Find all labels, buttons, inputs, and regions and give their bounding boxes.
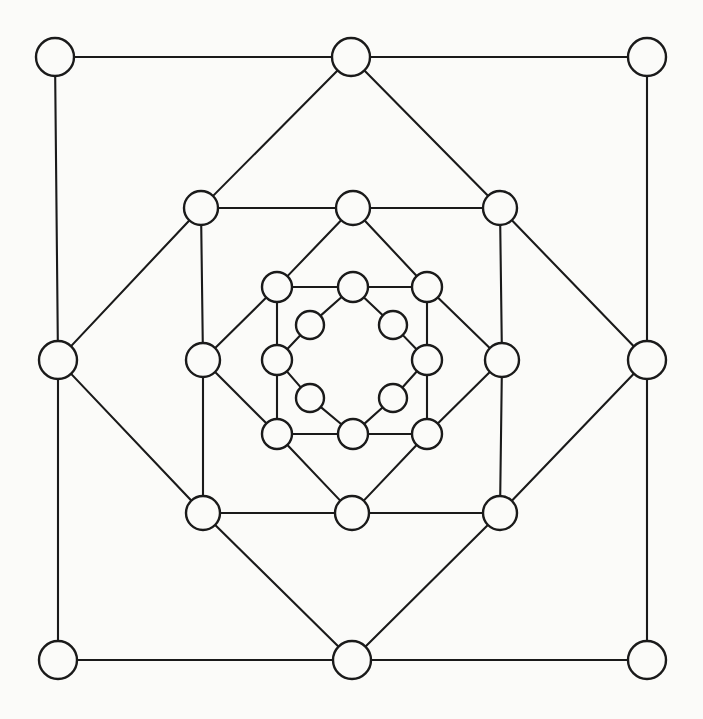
graph-edge bbox=[364, 220, 417, 277]
graph-edge bbox=[215, 297, 267, 348]
graph-edge bbox=[364, 70, 489, 196]
graph-node-r3-s[interactable] bbox=[338, 419, 368, 449]
graph-edge bbox=[213, 70, 338, 196]
node-layer bbox=[36, 38, 666, 679]
graph-node-r2-ne[interactable] bbox=[483, 191, 517, 225]
graph-node-r1-ne[interactable] bbox=[628, 38, 666, 76]
graph-edge bbox=[365, 525, 488, 647]
graph-node-r2-w[interactable] bbox=[186, 343, 220, 377]
graph-edge bbox=[287, 444, 341, 501]
graph-node-r2-s[interactable] bbox=[335, 496, 369, 530]
graph-edge bbox=[201, 224, 203, 343]
graph-edge bbox=[511, 373, 634, 501]
graph-node-r2-n[interactable] bbox=[336, 191, 370, 225]
edge-layer bbox=[55, 57, 647, 660]
graph-node-r3-w[interactable] bbox=[262, 345, 292, 375]
graph-node-r1-nw[interactable] bbox=[36, 38, 74, 76]
graph-edge bbox=[363, 444, 417, 501]
graph-edge bbox=[320, 407, 342, 425]
graph-node-r1-e[interactable] bbox=[628, 341, 666, 379]
graph-node-r3-n[interactable] bbox=[338, 272, 368, 302]
graph-node-r1-w[interactable] bbox=[39, 341, 77, 379]
graph-canvas bbox=[0, 0, 703, 719]
graph-edge bbox=[402, 371, 417, 388]
graph-edge bbox=[511, 220, 634, 347]
graph-node-r4-se[interactable] bbox=[379, 384, 407, 412]
graph-edge bbox=[286, 371, 301, 388]
graph-edge bbox=[287, 220, 342, 277]
graph-edge bbox=[71, 373, 192, 501]
graph-node-r4-sw[interactable] bbox=[296, 384, 324, 412]
graph-node-r1-sw[interactable] bbox=[39, 641, 77, 679]
graph-figure bbox=[0, 0, 703, 719]
graph-node-r3-se[interactable] bbox=[412, 419, 442, 449]
graph-edge bbox=[215, 372, 267, 424]
graph-edge bbox=[71, 220, 190, 347]
graph-edge bbox=[500, 224, 502, 343]
graph-node-r4-ne[interactable] bbox=[379, 311, 407, 339]
graph-node-r1-s[interactable] bbox=[333, 641, 371, 679]
graph-node-r2-sw[interactable] bbox=[186, 496, 220, 530]
graph-edge bbox=[500, 376, 502, 496]
graph-node-r1-se[interactable] bbox=[628, 641, 666, 679]
graph-edge bbox=[437, 372, 490, 424]
graph-edge bbox=[287, 335, 301, 350]
graph-node-r1-n[interactable] bbox=[332, 38, 370, 76]
graph-edge bbox=[364, 407, 383, 424]
graph-node-r4-nw[interactable] bbox=[296, 311, 324, 339]
graph-node-r2-se[interactable] bbox=[483, 496, 517, 530]
graph-edge bbox=[215, 525, 339, 648]
graph-edge bbox=[363, 297, 383, 316]
graph-edge bbox=[402, 335, 417, 350]
graph-node-r3-e[interactable] bbox=[412, 345, 442, 375]
graph-edge bbox=[55, 75, 58, 341]
graph-edge bbox=[437, 297, 490, 349]
graph-node-r3-sw[interactable] bbox=[262, 419, 292, 449]
graph-node-r3-nw[interactable] bbox=[262, 272, 292, 302]
graph-node-r2-e[interactable] bbox=[485, 343, 519, 377]
graph-node-r3-ne[interactable] bbox=[412, 272, 442, 302]
graph-node-r2-nw[interactable] bbox=[184, 191, 218, 225]
graph-edge bbox=[320, 297, 342, 317]
